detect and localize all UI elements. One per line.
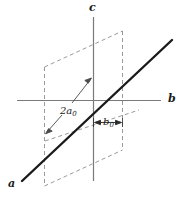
annotation-label-2a0-base: 2a [60, 105, 72, 116]
arrow-shaft [72, 80, 90, 103]
annotation-2a0-upper-arrow [72, 78, 92, 103]
plane-edge-top [45, 31, 123, 67]
diagram-canvas [0, 0, 183, 197]
arrow-head [46, 129, 53, 134]
annotation-label-b0: b0 [103, 117, 114, 127]
annotation-label-2a0-subscript: 0 [72, 110, 76, 118]
dimension-arrow-head-left [95, 120, 101, 124]
arrow-head [85, 78, 92, 83]
annotation-label-b0-subscript: 0 [109, 121, 113, 129]
annotation-2a0-lower-arrow [46, 115, 63, 134]
crystal-axes-diagram: c b a 2a0 b0 [0, 0, 183, 197]
axis-label-c: c [89, 2, 96, 13]
plane-edge-bottom [45, 150, 123, 186]
annotation-label-2a0: 2a0 [60, 106, 77, 116]
axis-label-a: a [8, 178, 15, 189]
dimension-arrow-head-right [116, 120, 122, 124]
axis-label-b: b [168, 93, 176, 104]
dashed-plane-shape [45, 31, 140, 186]
